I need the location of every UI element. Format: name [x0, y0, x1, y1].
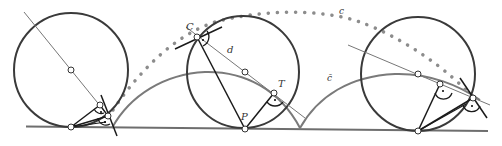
center-point-1 — [68, 67, 74, 73]
label-T: T — [278, 79, 285, 89]
right-angle-mark-1a — [94, 109, 104, 114]
point-1b — [105, 113, 111, 119]
label-P: P — [241, 112, 248, 122]
right-angle-mark-3a — [435, 93, 452, 99]
dot-1b — [104, 121, 106, 123]
point-1a — [97, 102, 103, 108]
point-P — [242, 126, 248, 132]
label-c: c — [339, 7, 344, 16]
dot-T — [274, 99, 276, 101]
segment-CP — [197, 37, 245, 129]
diameter-line-1 — [24, 12, 110, 118]
point-C — [194, 34, 200, 40]
contact-point-1 — [68, 124, 74, 130]
cycloid-curve — [112, 72, 480, 128]
dot-3b — [471, 105, 473, 107]
label-C: C — [186, 22, 194, 32]
label-d: d — [227, 45, 233, 55]
center-point-2 — [242, 69, 248, 75]
cycloid-diagram — [0, 0, 502, 146]
point-3b — [470, 95, 476, 101]
label-c-bar: c̄ — [327, 74, 332, 83]
point-3a — [437, 81, 443, 87]
point-T — [271, 90, 277, 96]
dot-3a — [442, 90, 444, 92]
dot-C — [202, 39, 204, 41]
contact-point-3 — [415, 128, 421, 134]
segment-3c — [418, 104, 466, 131]
segment-PT — [245, 93, 274, 129]
dot-1a — [100, 111, 102, 113]
center-point-3 — [415, 71, 421, 77]
